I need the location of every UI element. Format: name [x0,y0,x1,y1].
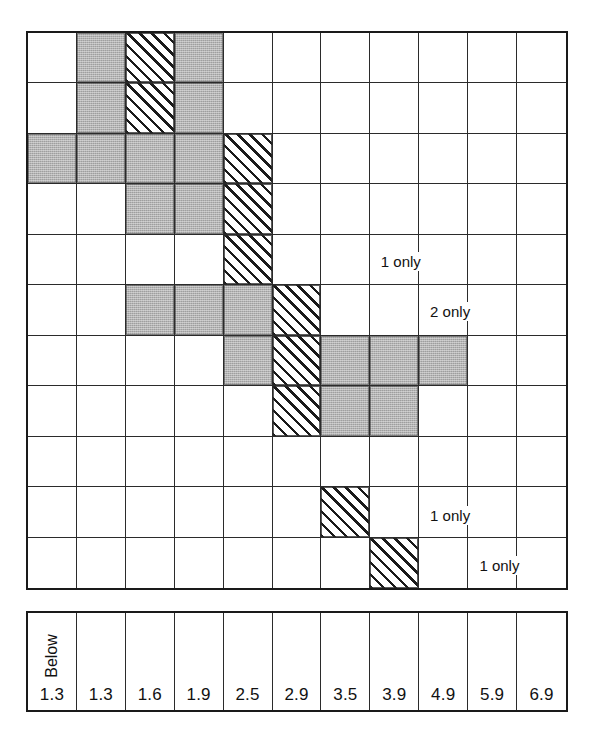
matrix-cell [28,487,77,537]
matrix-cell [28,386,77,436]
matrix-cell [224,285,273,335]
matrix-cell [321,336,370,386]
matrix-cell [419,134,468,184]
matrix-cell [126,33,175,83]
matrix-cell [126,437,175,487]
matrix-cell [273,235,322,285]
axis-tick-value: 3.9 [382,685,406,705]
matrix-cell [321,437,370,487]
matrix-cell [28,184,77,234]
annotation-label: 1 only [426,506,474,525]
matrix-cell [517,538,566,588]
axis-tick-cell: 2.5 [224,613,273,710]
matrix-cell [273,83,322,133]
matrix-cell [77,235,126,285]
matrix-cell [175,134,224,184]
matrix-cell [517,386,566,436]
axis-tick-value: 1.3 [89,685,113,705]
axis-tick-value: 3.5 [333,685,357,705]
matrix-cell [224,437,273,487]
matrix-cell [419,336,468,386]
matrix-cell [224,134,273,184]
matrix-cell [419,386,468,436]
axis-tick-value: 2.5 [235,685,259,705]
axis-tick-value: 1.9 [187,685,211,705]
matrix-cell [273,336,322,386]
matrix-cell [370,437,419,487]
matrix-cell [175,235,224,285]
matrix-cell [517,83,566,133]
matrix-cell [224,235,273,285]
matrix-cell [517,336,566,386]
matrix-cell [126,386,175,436]
matrix-cell [370,285,419,335]
matrix-cell [77,437,126,487]
axis-tick-cell: 2.9 [273,613,322,710]
matrix-cell [224,336,273,386]
matrix-cell [370,538,419,588]
axis-below-label: Below [43,634,61,678]
axis-tick-cell: 3.5 [321,613,370,710]
annotation-label: 1 only [475,556,523,575]
matrix-cell [77,184,126,234]
matrix-cell [28,235,77,285]
matrix-cell [77,487,126,537]
matrix-cell [321,134,370,184]
matrix-cell [468,487,517,537]
matrix-cell [321,235,370,285]
axis-tick-cell: 1.3 [77,613,126,710]
matrix-cell [175,538,224,588]
matrix-cell [126,235,175,285]
matrix-cell [175,184,224,234]
matrix-cell [370,33,419,83]
matrix-cell [175,336,224,386]
matrix-cell [370,184,419,234]
matrix-cell [273,285,322,335]
axis-tick-cell: 3.9 [370,613,419,710]
matrix-cell [370,336,419,386]
matrix-cell [28,134,77,184]
matrix-cell [224,83,273,133]
matrix-cell [419,437,468,487]
matrix-cell [28,336,77,386]
matrix-grid: 1 only2 only1 only1 only [26,31,568,590]
matrix-cell [370,386,419,436]
matrix-cell [28,437,77,487]
matrix-cell [28,33,77,83]
matrix-cell [468,336,517,386]
axis-tick-cell: 5.9 [468,613,517,710]
matrix-cell [468,134,517,184]
axis-tick-cell: 4.9 [419,613,468,710]
matrix-cell [468,285,517,335]
matrix-cell [517,487,566,537]
matrix-cell [517,285,566,335]
matrix-cell [175,83,224,133]
matrix-cell [77,386,126,436]
matrix-cell [273,538,322,588]
matrix-cell [468,83,517,133]
matrix-cell [28,83,77,133]
matrix-cell [126,83,175,133]
matrix-cell [126,487,175,537]
matrix-cell [273,437,322,487]
matrix-cell [517,184,566,234]
matrix-cell [370,83,419,133]
axis-tick-cell: Below1.3 [28,613,77,710]
matrix-cell [517,437,566,487]
axis-tick-value: 1.3 [40,685,64,705]
matrix-cell [517,134,566,184]
matrix-cell [224,33,273,83]
matrix-cell [126,134,175,184]
matrix-cell [224,184,273,234]
matrix-cell [126,538,175,588]
matrix-cell [77,33,126,83]
matrix-cell [321,285,370,335]
matrix-cell [321,386,370,436]
matrix-cell [468,437,517,487]
matrix-cell [175,437,224,487]
matrix-cell [175,386,224,436]
matrix-cell [321,184,370,234]
matrix-cell [126,184,175,234]
matrix-cell [126,285,175,335]
matrix-cell [28,538,77,588]
